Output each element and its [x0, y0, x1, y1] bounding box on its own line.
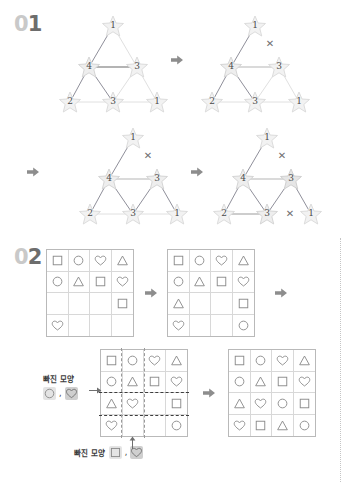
- grid-cell[interactable]: [233, 315, 255, 337]
- section-01-zero: 0: [14, 12, 28, 36]
- callout-column-label: 빠진 모양: [74, 447, 105, 458]
- triangle-icon: [72, 275, 85, 288]
- shape-grid-2[interactable]: [167, 249, 255, 337]
- square-icon: [215, 275, 228, 288]
- grid-cell[interactable]: [90, 250, 112, 272]
- callout-column-separator: ,: [124, 448, 129, 457]
- grid-cell[interactable]: [112, 293, 134, 315]
- shape-grid-1[interactable]: [46, 249, 134, 337]
- grid-cell[interactable]: [90, 293, 112, 315]
- grid-cell[interactable]: [168, 272, 190, 294]
- grid-cell[interactable]: [166, 415, 188, 437]
- grid-cell[interactable]: [47, 272, 69, 294]
- grid-cell[interactable]: [144, 372, 166, 394]
- grid-cell[interactable]: [101, 415, 123, 437]
- grid-cell[interactable]: [144, 350, 166, 372]
- triangle-icon: [298, 354, 311, 367]
- grid-cell[interactable]: [229, 350, 251, 372]
- section-02-zero: 0: [14, 245, 28, 269]
- grid-cell[interactable]: [294, 393, 316, 415]
- grid-cell[interactable]: [144, 393, 166, 415]
- grid-cell[interactable]: [112, 250, 134, 272]
- heart-icon: [126, 397, 139, 410]
- grid-cell[interactable]: [294, 350, 316, 372]
- circle-icon: [193, 254, 206, 267]
- grid-cell[interactable]: [190, 272, 212, 294]
- grid-cell[interactable]: [168, 315, 190, 337]
- page-edge-dotted-rule: [340, 238, 342, 482]
- grid-cell[interactable]: [294, 415, 316, 437]
- square-icon: [237, 297, 250, 310]
- grid-cell[interactable]: [123, 393, 145, 415]
- grid-cell[interactable]: [229, 393, 251, 415]
- grid-cell[interactable]: [123, 415, 145, 437]
- grid-cell[interactable]: [272, 372, 294, 394]
- grid-cell[interactable]: [233, 293, 255, 315]
- grid-cell[interactable]: [294, 372, 316, 394]
- grid-cell[interactable]: [251, 350, 273, 372]
- grid-cell[interactable]: [69, 250, 91, 272]
- grid-cell[interactable]: [190, 250, 212, 272]
- grid-cell[interactable]: [123, 350, 145, 372]
- grid-cell[interactable]: [123, 372, 145, 394]
- grid-cell[interactable]: [168, 293, 190, 315]
- grid-cell[interactable]: [190, 293, 212, 315]
- grid-cell[interactable]: [112, 272, 134, 294]
- arrow-right-icon: [202, 386, 216, 400]
- grid-cell[interactable]: [272, 393, 294, 415]
- grid-cell[interactable]: [251, 372, 273, 394]
- shape-grid-4[interactable]: [228, 349, 316, 437]
- grid-cell[interactable]: [90, 315, 112, 337]
- star-label: 2: [200, 95, 224, 107]
- grid-cell[interactable]: [211, 250, 233, 272]
- grid-cell[interactable]: [101, 393, 123, 415]
- callout-row-separator: ,: [58, 389, 63, 398]
- star-label: 2: [58, 95, 82, 107]
- grid-cell[interactable]: [211, 293, 233, 315]
- grid-cell[interactable]: [166, 372, 188, 394]
- square-icon: [170, 397, 183, 410]
- grid-cell[interactable]: [272, 415, 294, 437]
- grid-cell[interactable]: [101, 372, 123, 394]
- grid-cell[interactable]: [144, 415, 166, 437]
- triangle-icon: [116, 254, 129, 267]
- grid-cell[interactable]: [69, 272, 91, 294]
- section-number-02: 02: [14, 247, 41, 268]
- grid-cell[interactable]: [233, 272, 255, 294]
- grid-cell[interactable]: [47, 315, 69, 337]
- star-icon-bottom-right: 1: [287, 90, 311, 114]
- grid-cell[interactable]: [211, 315, 233, 337]
- grid-cell[interactable]: [229, 415, 251, 437]
- grid-cell[interactable]: [47, 250, 69, 272]
- star-label: 2: [78, 207, 102, 219]
- grid-cell[interactable]: [251, 393, 273, 415]
- grid-cell[interactable]: [229, 372, 251, 394]
- grid-cell[interactable]: [47, 293, 69, 315]
- shape-grid-3[interactable]: [100, 349, 188, 437]
- callout-row-label: 빠진 모양: [43, 373, 74, 384]
- square-icon: [233, 354, 246, 367]
- square-icon: [172, 254, 185, 267]
- grid-cell[interactable]: [90, 272, 112, 294]
- grid-cell[interactable]: [101, 350, 123, 372]
- grid-cell[interactable]: [190, 315, 212, 337]
- circle-icon: [254, 354, 267, 367]
- grid-cell[interactable]: [112, 315, 134, 337]
- grid-cell[interactable]: [69, 293, 91, 315]
- grid-cell[interactable]: [251, 415, 273, 437]
- star-icon-bottom-left: 2: [58, 90, 82, 114]
- grid-cell[interactable]: [211, 272, 233, 294]
- arrow-right-icon: [26, 165, 40, 179]
- grid-cell[interactable]: [233, 250, 255, 272]
- grid-cell[interactable]: [69, 315, 91, 337]
- star-label: 4: [77, 60, 101, 72]
- star-label: 1: [299, 207, 323, 219]
- grid-cell[interactable]: [166, 350, 188, 372]
- grid-cell[interactable]: [168, 250, 190, 272]
- heart-icon: [51, 319, 64, 332]
- callout-row-leader-arrow: [89, 386, 102, 395]
- grid-cell[interactable]: [272, 350, 294, 372]
- grid-cell[interactable]: [166, 393, 188, 415]
- heart-icon: [254, 397, 267, 410]
- star-icon-bottom-right: 1: [145, 90, 169, 114]
